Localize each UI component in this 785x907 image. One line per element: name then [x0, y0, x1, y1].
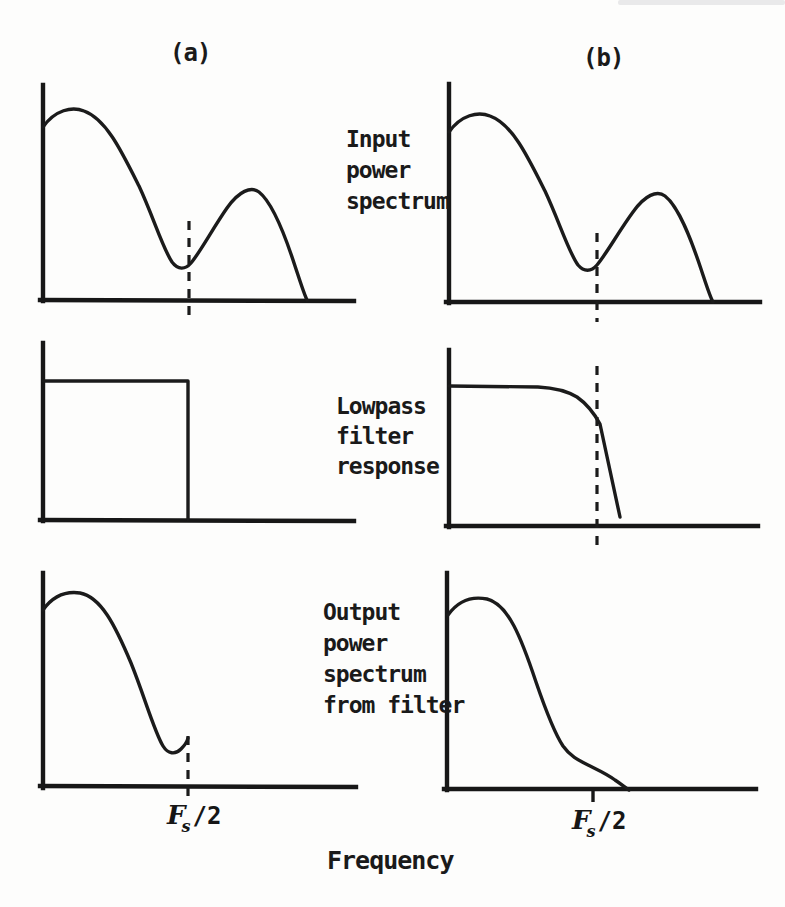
- output-spectrum-curve-a: [43, 593, 188, 753]
- x-axis-a2: [40, 520, 354, 521]
- ideal-brickwall-filter-curve: [43, 381, 188, 519]
- column-a-heading: (a): [170, 38, 210, 69]
- row3-line-3: spectrum: [323, 659, 464, 690]
- column-b-heading: (b): [583, 43, 623, 74]
- panel-b-filter-response: [446, 350, 758, 545]
- x-axis-a3: [40, 786, 356, 787]
- input-spectrum-curve-b: [449, 114, 713, 302]
- panel-b-output-spectrum: [444, 573, 756, 802]
- practical-lowpass-filter-curve: [449, 386, 620, 517]
- cutoff-subscript-a: s: [181, 817, 190, 836]
- row1-line-1: Input: [346, 124, 449, 155]
- row2-label-lowpass-filter-response: Lowpass filter response: [336, 391, 439, 481]
- x-axis-label-frequency: Frequency: [327, 845, 453, 876]
- row3-label-output-power-spectrum: Output power spectrum from filter: [323, 597, 464, 721]
- cutoff-label-a: Fs/2: [167, 800, 223, 830]
- input-spectrum-curve-a: [43, 109, 307, 300]
- cutoff-rest-a: /2: [192, 802, 221, 830]
- panel-b-input-spectrum: [446, 84, 760, 322]
- row2-line-3: response: [336, 451, 439, 481]
- cutoff-label-b: Fs/2: [572, 805, 628, 835]
- panel-a-filter-response: [40, 343, 354, 521]
- row1-line-2: power: [346, 155, 449, 186]
- row3-line-4: from filter: [323, 690, 464, 721]
- row2-line-1: Lowpass: [336, 391, 439, 421]
- scanned-textbook-figure: { "palette": { "ink": "#1b1b1b", "paper"…: [0, 0, 785, 907]
- row1-line-3: spectrum: [346, 186, 449, 217]
- cutoff-subscript-b: s: [586, 822, 595, 841]
- row1-label-input-power-spectrum: Input power spectrum: [346, 124, 449, 217]
- output-spectrum-curve-b: [448, 598, 629, 790]
- panel-a-output-spectrum: [40, 573, 356, 801]
- panel-a-input-spectrum: [40, 85, 354, 315]
- row3-line-1: Output: [323, 597, 464, 628]
- row3-line-2: power: [323, 628, 464, 659]
- cutoff-rest-b: /2: [597, 807, 626, 835]
- row2-line-2: filter: [336, 421, 439, 451]
